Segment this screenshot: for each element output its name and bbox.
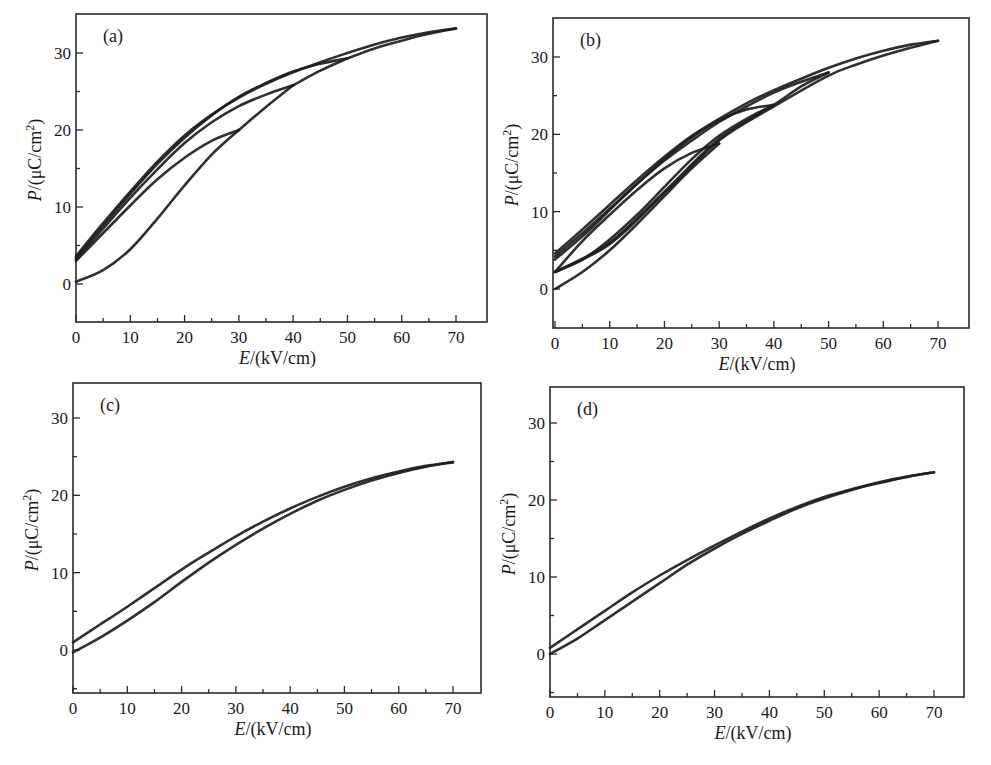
x-axis: 010203040506070 [72, 315, 465, 347]
x-tick-label: 40 [765, 334, 782, 353]
x-tick-label: 30 [227, 699, 244, 718]
y-tick-label: 10 [54, 198, 71, 217]
pe-loop-branch [73, 462, 453, 642]
x-tick-label: 70 [926, 703, 943, 722]
x-tick-label: 20 [656, 334, 673, 353]
x-tick-label: 60 [875, 334, 892, 353]
x-tick-label: 70 [445, 699, 462, 718]
x-axis: 010203040506070 [551, 321, 947, 353]
x-tick-label: 30 [711, 334, 728, 353]
y-tick-label: 0 [60, 641, 69, 660]
y-tick-label: 20 [531, 125, 548, 144]
x-tick-label: 50 [820, 334, 837, 353]
x-tick-label: 0 [546, 703, 555, 722]
x-tick-label: 70 [448, 328, 465, 347]
plot-frame [73, 383, 481, 693]
panel-label: (d) [577, 399, 598, 420]
x-tick-label: 40 [761, 703, 778, 722]
x-tick-label: 30 [230, 328, 247, 347]
x-axis-label: E/(kV/cm) [714, 723, 792, 744]
x-tick-label: 60 [871, 703, 888, 722]
x-axis-label: E/(kV/cm) [234, 719, 312, 740]
hysteresis-curves [76, 28, 456, 281]
y-tick-label: 30 [54, 44, 71, 63]
x-axis-label: E/(kV/cm) [718, 354, 796, 375]
y-tick-label: 30 [51, 409, 68, 428]
pe-loop-branch [555, 73, 829, 273]
panel-b-chart: 010203040506070E/(kV/cm)0102030P/(μC/cm2… [500, 18, 969, 375]
hysteresis-curves [73, 462, 453, 652]
pe-loop-branch [347, 28, 456, 58]
y-axis: 0102030 [528, 414, 557, 693]
x-axis-label: E/(kV/cm) [238, 348, 316, 369]
x-tick-label: 10 [119, 699, 136, 718]
plot-frame [553, 18, 969, 328]
y-tick-label: 0 [537, 645, 546, 664]
x-tick-label: 70 [930, 334, 947, 353]
x-tick-label: 40 [285, 328, 302, 347]
y-axis-label: P/(μC/cm2) [23, 119, 46, 203]
x-axis: 010203040506070 [69, 686, 462, 718]
x-tick-label: 50 [336, 699, 353, 718]
y-tick-label: 30 [528, 414, 545, 433]
pe-loop-branch [76, 130, 239, 282]
x-tick-label: 0 [69, 699, 78, 718]
x-tick-label: 50 [816, 703, 833, 722]
panel-label: (a) [103, 26, 123, 47]
y-axis-label: P/(μC/cm2) [20, 489, 43, 573]
pe-loop-branch [555, 105, 774, 272]
x-tick-label: 40 [282, 699, 299, 718]
x-tick-label: 0 [72, 328, 81, 347]
panel-label: (b) [580, 30, 601, 51]
x-tick-label: 60 [390, 699, 407, 718]
x-tick-label: 60 [393, 328, 410, 347]
y-axis-label: P/(μC/cm2) [500, 124, 523, 208]
x-tick-label: 20 [651, 703, 668, 722]
hysteresis-curves [550, 472, 934, 654]
panel-c-chart: 010203040506070E/(kV/cm)0102030P/(μC/cm2… [20, 383, 481, 740]
panel-label: (c) [100, 395, 120, 416]
x-tick-label: 10 [122, 328, 139, 347]
pe-loop-branch [555, 41, 938, 254]
x-tick-label: 20 [176, 328, 193, 347]
x-tick-label: 10 [601, 334, 618, 353]
y-tick-label: 0 [63, 275, 72, 294]
x-tick-label: 50 [339, 328, 356, 347]
pe-loop-branch [550, 472, 934, 654]
x-tick-label: 30 [706, 703, 723, 722]
figure: 010203040506070E/(kV/cm)0102030P/(μC/cm2… [0, 0, 991, 765]
plot-frame [550, 387, 964, 697]
y-tick-label: 30 [531, 48, 548, 67]
y-axis: 0102030 [531, 48, 560, 299]
pe-loop-branch [76, 130, 239, 261]
y-axis-label: P/(μC/cm2) [497, 493, 520, 577]
y-tick-label: 10 [531, 203, 548, 222]
figure-canvas: 010203040506070E/(kV/cm)0102030P/(μC/cm2… [0, 0, 991, 765]
pe-loop-branch [550, 472, 934, 648]
pe-loop-branch [73, 462, 453, 652]
y-axis: 0102030 [51, 409, 80, 689]
plot-frame [76, 14, 487, 322]
x-axis: 010203040506070 [546, 690, 943, 722]
panel-d-chart: 010203040506070E/(kV/cm)0102030P/(μC/cm2… [497, 387, 964, 744]
y-tick-label: 20 [54, 121, 71, 140]
x-tick-label: 20 [173, 699, 190, 718]
panel-a-chart: 010203040506070E/(kV/cm)0102030P/(μC/cm2… [23, 14, 487, 369]
y-tick-label: 10 [51, 564, 68, 583]
x-tick-label: 0 [551, 334, 560, 353]
hysteresis-curves [555, 41, 938, 289]
y-tick-label: 10 [528, 568, 545, 587]
y-tick-label: 20 [528, 491, 545, 510]
pe-loop-branch [76, 28, 456, 256]
y-tick-label: 0 [540, 280, 549, 299]
x-tick-label: 10 [596, 703, 613, 722]
y-tick-label: 20 [51, 486, 68, 505]
pe-loop-branch [76, 58, 347, 257]
